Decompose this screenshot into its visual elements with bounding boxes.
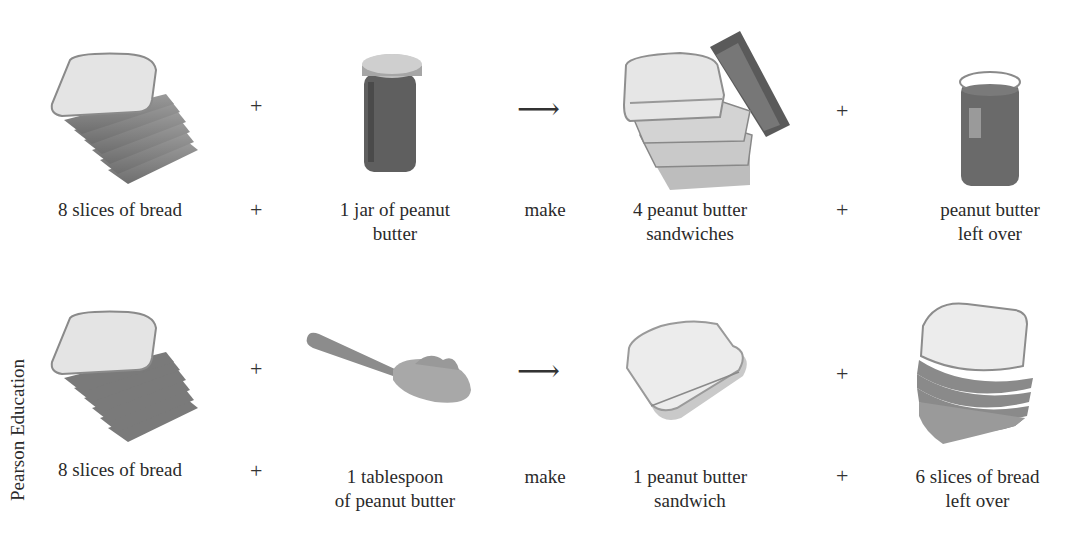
plus-sign: + — [250, 358, 262, 380]
make-label: make — [505, 198, 585, 222]
label-bread: 8 slices of bread — [30, 198, 210, 222]
plus-sign: + — [250, 460, 262, 482]
bread-stack-icon — [48, 50, 198, 190]
bread-stack-icon — [905, 300, 1045, 445]
yields-arrow: ⟶ — [517, 98, 560, 120]
label-sandwiches: 4 peanut butter sandwiches — [605, 198, 775, 246]
bread-stack-icon — [48, 308, 198, 448]
plus-sign: + — [250, 199, 262, 221]
plus-sign: + — [836, 363, 848, 385]
plus-sign: + — [250, 95, 262, 117]
yields-arrow: ⟶ — [517, 360, 560, 382]
plus-sign: + — [836, 100, 848, 122]
label-sandwich: 1 peanut butter sandwich — [605, 465, 775, 513]
plus-sign: + — [836, 465, 848, 487]
sandwich-stack-icon — [620, 25, 790, 195]
label-tablespoon: 1 tablespoon of peanut butter — [310, 465, 480, 513]
open-jar-icon — [955, 68, 1025, 190]
label-leftover-pb: peanut butter left over — [915, 198, 1065, 246]
label-leftover-bread: 6 slices of bread left over — [890, 465, 1065, 513]
plus-sign: + — [836, 199, 848, 221]
spoon-icon — [305, 330, 475, 410]
sandwich-icon — [625, 318, 765, 423]
credit-text: Pearson Education — [6, 340, 30, 520]
label-bread: 8 slices of bread — [30, 458, 210, 482]
label-jar: 1 jar of peanut butter — [315, 198, 475, 246]
make-label: make — [505, 465, 585, 489]
peanut-butter-jar-icon — [360, 52, 420, 177]
